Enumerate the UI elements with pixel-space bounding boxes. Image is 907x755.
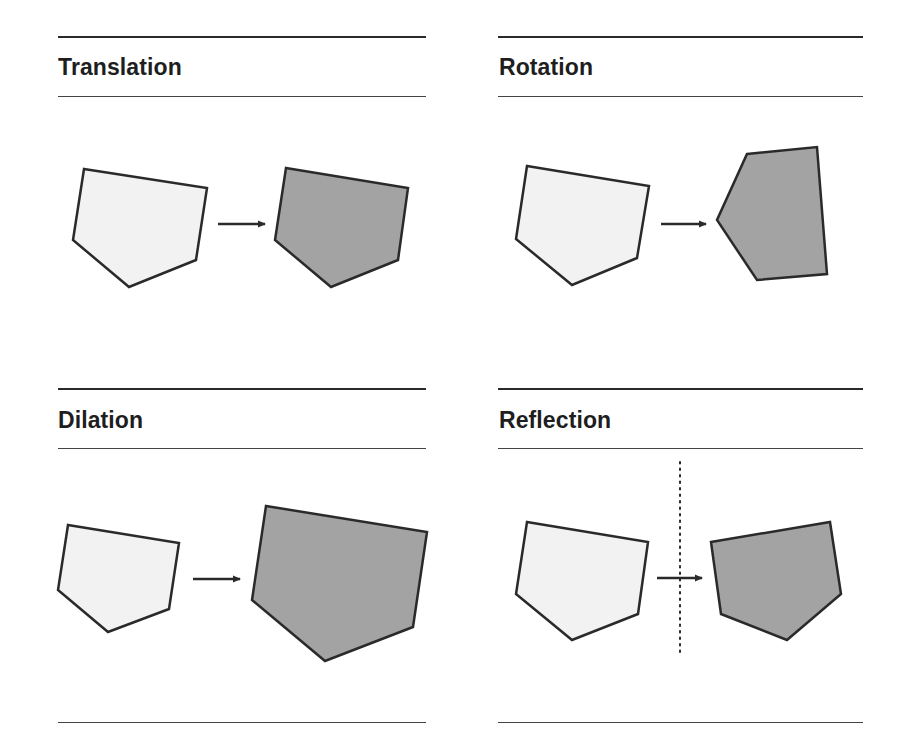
dilation-figure xyxy=(58,506,427,661)
rotated-pentagon xyxy=(717,147,827,280)
original-pentagon xyxy=(516,522,648,640)
shapes-canvas xyxy=(0,0,907,755)
rotation-figure xyxy=(516,147,827,285)
dilated-pentagon xyxy=(252,506,427,661)
translation-figure xyxy=(73,168,408,287)
original-pentagon xyxy=(58,525,179,632)
reflected-pentagon xyxy=(711,522,841,640)
original-pentagon xyxy=(73,169,207,287)
original-pentagon xyxy=(516,166,649,285)
reflection-figure xyxy=(516,462,841,652)
translated-pentagon xyxy=(275,168,408,287)
